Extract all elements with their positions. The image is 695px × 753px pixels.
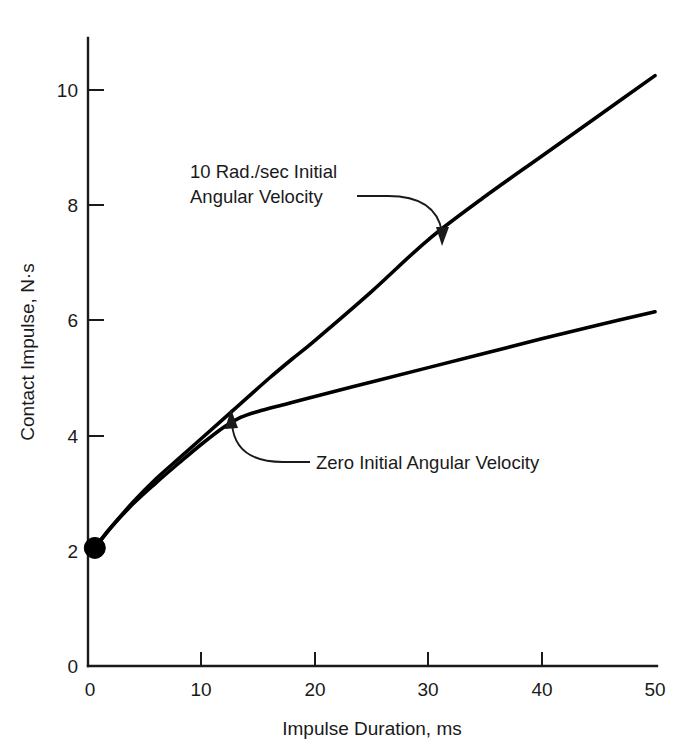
- y-tick-label-10: 10: [57, 80, 78, 101]
- x-axis-ticks: [201, 652, 542, 666]
- y-axis-ticks: [88, 90, 104, 551]
- x-tick-label-10: 10: [190, 679, 211, 700]
- lower-annotation-leader-line: [232, 424, 310, 462]
- upper-annotation-line-2: Angular Velocity: [190, 186, 323, 207]
- y-axis-title: Contact Impulse, N·s: [17, 263, 38, 440]
- lower-curve-annotation: Zero Initial Angular Velocity: [225, 409, 540, 473]
- chart-figure: 10 8 6 4 2 0 0 10 20 30 40 50 Impulse Du…: [0, 0, 695, 753]
- x-tick-label-0: 0: [85, 679, 96, 700]
- y-tick-label-4: 4: [67, 426, 78, 447]
- upper-curve-annotation: 10 Rad./sec Initial Angular Velocity: [190, 161, 449, 246]
- x-axis-tick-labels: 0 10 20 30 40 50: [85, 679, 666, 700]
- start-point-marker: [84, 537, 105, 558]
- series-line-10-rad-per-sec: [95, 76, 655, 548]
- upper-annotation-line-1: 10 Rad./sec Initial: [190, 161, 337, 182]
- y-axis-tick-labels: 10 8 6 4 2 0: [57, 80, 79, 677]
- x-tick-label-30: 30: [417, 679, 438, 700]
- axes: [88, 38, 657, 666]
- y-tick-label-8: 8: [67, 195, 78, 216]
- upper-annotation-arrowhead: [436, 227, 449, 246]
- x-axis-title: Impulse Duration, ms: [282, 718, 462, 739]
- y-tick-label-2: 2: [67, 541, 78, 562]
- lower-annotation-line-1: Zero Initial Angular Velocity: [316, 452, 540, 473]
- x-tick-label-20: 20: [304, 679, 325, 700]
- contact-impulse-line-chart: 10 8 6 4 2 0 0 10 20 30 40 50 Impulse Du…: [0, 0, 695, 753]
- y-tick-label-0: 0: [67, 656, 78, 677]
- y-tick-label-6: 6: [67, 310, 78, 331]
- x-tick-label-40: 40: [531, 679, 552, 700]
- series-line-zero-angular-velocity: [95, 312, 655, 548]
- upper-annotation-leader-line: [357, 196, 442, 232]
- x-tick-label-50: 50: [644, 679, 665, 700]
